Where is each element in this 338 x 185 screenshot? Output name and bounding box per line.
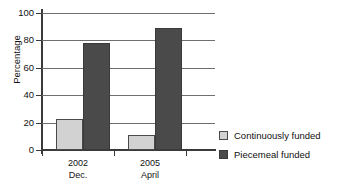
legend-label-continuously-funded: Continuously funded: [234, 131, 321, 141]
bar-continuously-funded-2002: [56, 119, 83, 151]
gridline-100: [42, 13, 215, 14]
x-tick-mark-start: [42, 150, 43, 156]
legend-label-piecemeal-funded: Piecemeal funded: [234, 150, 310, 160]
plot-area: [42, 13, 215, 150]
x-tick-mark-middle: [114, 150, 115, 156]
legend-swatch-light-gray-square: [219, 131, 228, 140]
x-category-label-2002: 2002 Dec.: [43, 158, 113, 181]
gridline-60: [42, 68, 215, 69]
bar-chart-figure: Percentage 100 80 60 40 20 0 2002 Dec.: [0, 0, 338, 185]
legend-item-piecemeal-funded: Piecemeal funded: [219, 145, 321, 164]
x-category-2005-line1: 2005: [115, 158, 185, 170]
chart-legend: Continuously funded Piecemeal funded: [219, 126, 321, 164]
legend-item-continuously-funded: Continuously funded: [219, 126, 321, 145]
y-tick-label-100: 100: [4, 8, 34, 18]
y-tick-label-0: 0: [4, 145, 34, 155]
x-tick-mark-end: [186, 150, 187, 156]
y-tick-label-60: 60: [4, 63, 34, 73]
y-tick-label-20: 20: [4, 118, 34, 128]
x-category-label-2005: 2005 April: [115, 158, 185, 181]
legend-swatch-dark-gray-square: [219, 150, 228, 159]
gridline-40: [42, 95, 215, 96]
y-axis-tick-labels: 100 80 60 40 20 0: [0, 0, 34, 185]
y-tick-label-40: 40: [4, 90, 34, 100]
bar-continuously-funded-2005: [128, 135, 155, 150]
x-category-2002-line1: 2002: [43, 158, 113, 170]
bar-piecemeal-funded-2005: [155, 28, 182, 150]
x-category-2002-line2: Dec.: [43, 170, 113, 182]
bar-piecemeal-funded-2002: [83, 43, 110, 150]
gridline-80: [42, 40, 215, 41]
x-category-2005-line2: April: [115, 170, 185, 182]
y-tick-label-80: 80: [4, 35, 34, 45]
